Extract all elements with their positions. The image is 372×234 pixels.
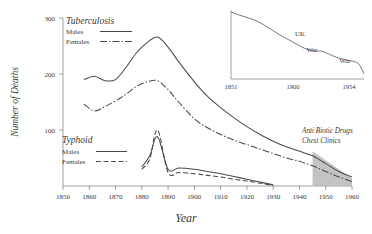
inset-annotation-uk: UK (295, 30, 305, 37)
legend-tuberculosis: Tuberculosis Males Females (66, 16, 132, 46)
chart-figure: 100200300 185018601870188018901900191019… (0, 0, 372, 234)
inset-xtick-1900: 1900 (287, 83, 300, 90)
legend-tuberculosis-females-label: Females (66, 38, 90, 46)
legend-typhoid-females-label: Females (62, 158, 86, 166)
y-axis-title: Number of Deaths (10, 67, 20, 138)
legend-typhoid: Typhoid Males Females (62, 135, 127, 166)
legend-tuberculosis-title: Tuberculosis (66, 16, 115, 26)
annotation-anti-biotic-drugs: Anti Biotic Drugs (301, 127, 353, 135)
y-tick-label-100: 100 (45, 127, 56, 135)
y-tick-label-300: 300 (45, 15, 56, 23)
x-tick-label-1930: 1930 (266, 193, 281, 201)
x-axis-title: Year (175, 211, 197, 225)
y-axis-ticks: 100200300 (45, 15, 64, 135)
antibiotic-era-shaded-region (313, 151, 352, 186)
inset-xtick-1954: 1954 (343, 83, 357, 90)
series-line-typhoid-males (142, 137, 273, 185)
x-tick-label-1960: 1960 (345, 193, 360, 201)
x-tick-label-1900: 1900 (187, 193, 202, 201)
inset-xtick-1851: 1851 (225, 83, 238, 90)
x-tick-label-1940: 1940 (292, 193, 307, 201)
inset-annotation-war-2: War (339, 57, 351, 64)
x-tick-label-1950: 1950 (319, 193, 334, 201)
annotation-chest-clinics: Chest Clinics (302, 137, 341, 145)
x-tick-label-1850: 1850 (56, 193, 71, 201)
inset-chart: 1851 1900 1954 UK War War (225, 10, 365, 90)
main-axes: 100200300 185018601870188018901900191019… (45, 15, 360, 201)
x-tick-label-1910: 1910 (214, 193, 229, 201)
legend-typhoid-title: Typhoid (62, 135, 93, 145)
series-line-typhoid-females (142, 130, 273, 186)
mortality-chart-svg: 100200300 185018601870188018901900191019… (0, 0, 372, 234)
x-tick-label-1870: 1870 (109, 193, 124, 201)
x-tick-label-1860: 1860 (82, 193, 97, 201)
x-tick-label-1890: 1890 (161, 193, 176, 201)
y-tick-label-200: 200 (45, 71, 56, 79)
x-axis-ticks: 1850186018701880189019001910192019301940… (56, 186, 360, 201)
series-line-tuberculosis-males (84, 37, 352, 177)
inset-trend-line (231, 12, 364, 74)
x-tick-label-1920: 1920 (240, 193, 255, 201)
inset-annotation-war-1: War (306, 46, 318, 53)
x-tick-label-1880: 1880 (135, 193, 150, 201)
legend-tuberculosis-males-label: Males (66, 28, 83, 36)
legend-typhoid-males-label: Males (62, 148, 79, 156)
data-series-group (84, 37, 352, 185)
